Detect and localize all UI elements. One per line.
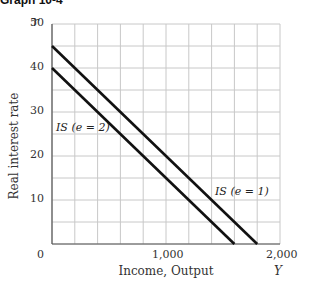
x-tick-label: 2,000: [266, 248, 298, 261]
y-tick-label: 40: [30, 60, 44, 73]
y-tick-label: 50: [30, 16, 44, 29]
x-tick-label: 1,000: [152, 248, 184, 261]
x-tick-label: 0: [37, 248, 44, 261]
y-tick-label: 10: [30, 192, 44, 205]
x-axis-symbol: Y: [274, 264, 282, 278]
x-axis-label: Income, Output: [118, 264, 213, 278]
is-e2-label: IS (e = 2): [56, 121, 110, 134]
is-curve: [52, 46, 257, 244]
is-e1-label: IS (e = 1): [215, 185, 269, 198]
y-axis-label: Real interest rate: [7, 93, 21, 200]
y-tick-label: 20: [30, 148, 44, 161]
y-tick-label: 30: [30, 104, 44, 117]
